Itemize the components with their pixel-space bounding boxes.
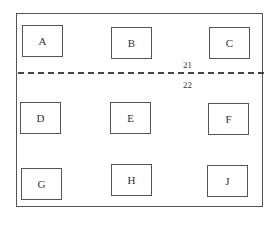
box-label: H <box>128 174 136 186</box>
box-d: D <box>20 102 61 134</box>
box-g: G <box>21 168 62 200</box>
box-j: J <box>207 165 248 197</box>
box-label: D <box>37 112 45 124</box>
divider-label-above: 21 <box>183 60 192 70</box>
divider-label-below: 22 <box>183 80 192 90</box>
box-label: E <box>127 112 134 124</box>
box-label: C <box>226 37 233 49</box>
box-label: F <box>225 113 231 125</box>
box-label: G <box>38 178 46 190</box>
box-h: H <box>111 164 152 196</box>
box-e: E <box>110 102 151 134</box>
box-c: C <box>209 27 250 59</box>
box-b: B <box>111 27 152 59</box>
box-label: A <box>39 35 47 47</box>
box-label: J <box>225 175 229 187</box>
box-label: B <box>128 37 135 49</box>
dashed-divider <box>18 72 264 74</box>
box-f: F <box>208 103 249 135</box>
box-a: A <box>22 25 63 57</box>
